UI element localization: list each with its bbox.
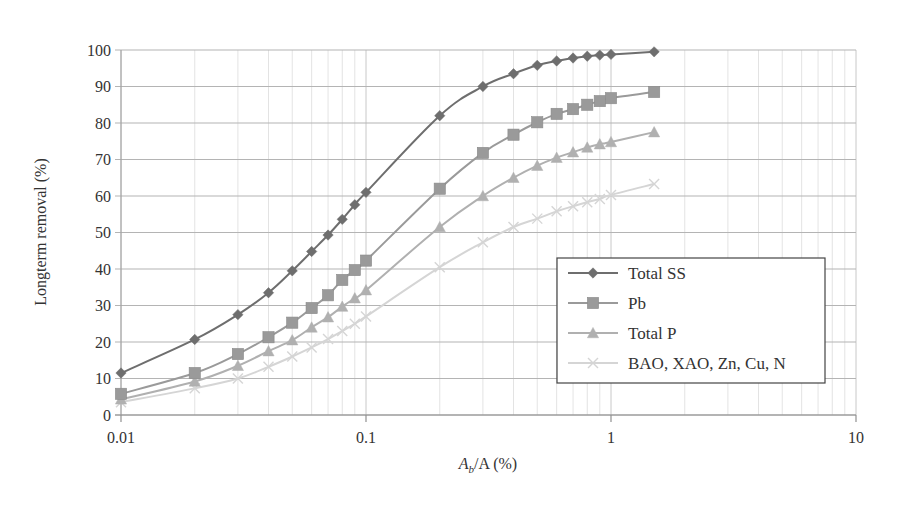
- y-tick-label: 70: [95, 151, 111, 168]
- x-tick-label: 1: [607, 429, 615, 446]
- legend-label: BAO, XAO, Zn, Cu, N: [628, 354, 786, 373]
- y-tick-label: 10: [95, 370, 111, 387]
- diamond-marker-icon: [508, 69, 518, 79]
- square-marker-icon: [605, 93, 616, 104]
- legend-label: Total P: [628, 324, 676, 343]
- triangle-marker-icon: [287, 335, 298, 345]
- diamond-marker-icon: [649, 47, 659, 57]
- legend-label: Pb: [628, 294, 646, 313]
- square-marker-icon: [360, 255, 371, 266]
- x-axis-title: Ab/A (%): [458, 455, 517, 475]
- diamond-marker-icon: [595, 50, 605, 60]
- square-marker-icon: [115, 388, 126, 399]
- x-tick-label: 0.1: [356, 429, 376, 446]
- square-marker-icon: [649, 86, 660, 97]
- y-tick-label: 20: [95, 334, 111, 351]
- square-marker-icon: [582, 99, 593, 110]
- triangle-marker-icon: [508, 172, 519, 182]
- diamond-marker-icon: [190, 334, 200, 344]
- square-marker-icon: [477, 147, 488, 158]
- square-marker-icon: [189, 367, 200, 378]
- square-marker-icon: [287, 317, 298, 328]
- y-tick-label: 100: [87, 42, 111, 59]
- y-tick-label: 80: [95, 115, 111, 132]
- triangle-marker-icon: [337, 301, 348, 311]
- x-tick-label: 0.01: [107, 429, 135, 446]
- legend: Total SS Pb Total P BAO, XAO, Zn, Cu, N: [557, 258, 825, 383]
- x-axis-title-main: A: [458, 455, 469, 472]
- square-marker-icon: [263, 332, 274, 343]
- tick-labels: 01020304050607080901000.010.1110: [87, 42, 864, 447]
- y-tick-label: 30: [95, 297, 111, 314]
- square-marker-icon: [532, 117, 543, 128]
- y-tick-label: 40: [95, 261, 111, 278]
- diamond-marker-icon: [532, 60, 542, 70]
- triangle-marker-icon: [263, 346, 274, 356]
- square-marker-icon: [508, 129, 519, 140]
- square-marker-icon: [322, 290, 333, 301]
- square-marker-icon: [551, 108, 562, 119]
- diamond-marker-icon: [582, 51, 592, 61]
- diamond-marker-icon: [233, 309, 243, 319]
- square-marker-icon: [587, 297, 598, 308]
- y-tick-label: 50: [95, 224, 111, 241]
- square-marker-icon: [434, 183, 445, 194]
- legend-label: Total SS: [628, 264, 686, 283]
- diamond-marker-icon: [568, 53, 578, 63]
- diamond-marker-icon: [606, 49, 616, 59]
- triangle-marker-icon: [649, 127, 660, 137]
- y-tick-label: 90: [95, 78, 111, 95]
- x-tick-label: 10: [848, 429, 864, 446]
- square-marker-icon: [306, 302, 317, 313]
- triangle-marker-icon: [532, 160, 543, 170]
- square-marker-icon: [232, 348, 243, 359]
- triangle-marker-icon: [349, 293, 360, 303]
- diamond-marker-icon: [116, 368, 126, 378]
- square-marker-icon: [567, 104, 578, 115]
- diamond-marker-icon: [551, 56, 561, 66]
- y-axis-title: Longterm removal (%): [32, 158, 50, 306]
- y-tick-label: 0: [103, 407, 111, 424]
- diamond-marker-icon: [478, 81, 488, 91]
- triangle-marker-icon: [232, 360, 243, 370]
- square-marker-icon: [349, 264, 360, 275]
- y-tick-label: 60: [95, 188, 111, 205]
- triangle-marker-icon: [306, 322, 317, 332]
- square-marker-icon: [594, 96, 605, 107]
- chart: 01020304050607080901000.010.1110 Longter…: [0, 0, 900, 505]
- x-axis-title-rest: /A (%): [474, 455, 517, 473]
- square-marker-icon: [337, 274, 348, 285]
